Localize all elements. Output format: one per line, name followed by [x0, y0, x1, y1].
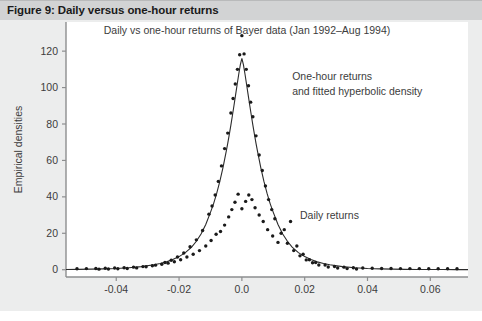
x-tick-label: 0.0	[235, 283, 250, 295]
data-point	[141, 265, 144, 268]
data-point	[107, 267, 110, 270]
data-point	[244, 200, 247, 203]
data-point	[160, 263, 163, 266]
data-point	[220, 164, 223, 167]
data-point	[214, 233, 217, 236]
data-point	[113, 266, 116, 269]
data-point	[289, 220, 292, 223]
chart-annotation: Daily returns	[300, 209, 359, 221]
data-point	[188, 245, 191, 248]
data-point	[361, 266, 364, 269]
data-point	[408, 267, 411, 270]
data-point	[251, 115, 254, 118]
figure-container: Figure 9: Daily versus one-hour returns …	[0, 0, 482, 321]
data-point	[257, 213, 260, 216]
data-point	[182, 251, 185, 254]
data-point	[273, 217, 276, 220]
data-point	[213, 193, 216, 196]
plot-background	[66, 22, 468, 277]
data-point	[336, 266, 339, 269]
data-point	[240, 34, 243, 37]
data-point	[104, 267, 107, 270]
figure-header-bar: Figure 9: Daily versus one-hour returns	[0, 0, 482, 21]
data-point	[355, 267, 358, 270]
data-point	[266, 228, 269, 231]
data-point	[283, 228, 286, 231]
data-point	[217, 180, 220, 183]
y-tick-label: 0	[52, 263, 58, 275]
data-point	[204, 244, 207, 247]
data-point	[267, 198, 270, 201]
data-point	[345, 267, 348, 270]
figure-footer	[0, 311, 482, 321]
data-point	[247, 193, 250, 196]
data-point	[223, 223, 226, 226]
data-point	[271, 234, 274, 237]
x-tick-label: 0.02	[294, 283, 315, 295]
data-point	[179, 258, 182, 261]
data-point	[295, 244, 298, 247]
x-tick-label: -0.04	[104, 283, 128, 295]
y-tick-label: 100	[40, 81, 58, 93]
data-point	[298, 254, 301, 257]
data-point	[185, 255, 188, 258]
data-point	[436, 267, 439, 270]
data-point	[85, 267, 88, 270]
data-point	[144, 265, 147, 268]
y-tick-label: 80	[46, 118, 58, 130]
data-point	[210, 204, 213, 207]
data-point	[250, 198, 253, 201]
chart-plot: 020406080100120-0.04-0.020.00.020.040.06…	[0, 20, 482, 311]
data-point	[154, 263, 157, 266]
y-axis-title: Empirical densities	[12, 106, 24, 194]
data-point	[317, 263, 320, 266]
data-point	[352, 266, 355, 269]
data-point	[198, 249, 201, 252]
data-point	[446, 267, 449, 270]
data-point	[192, 253, 195, 256]
data-point	[231, 97, 234, 100]
data-point	[245, 68, 248, 71]
data-point	[427, 267, 430, 270]
data-point	[418, 267, 421, 270]
data-point	[240, 207, 243, 210]
chart-annotation: and fitted hyperbolic density	[292, 85, 423, 97]
x-tick-label: 0.04	[357, 283, 378, 295]
data-point	[201, 229, 204, 232]
data-point	[230, 208, 233, 211]
data-point	[301, 253, 304, 256]
data-point	[371, 267, 374, 270]
data-point	[97, 267, 100, 270]
data-point	[333, 265, 336, 268]
data-point	[292, 249, 295, 252]
data-point	[135, 266, 138, 269]
data-point	[166, 261, 169, 264]
data-point	[233, 201, 236, 204]
data-point	[176, 255, 179, 258]
data-point	[308, 258, 311, 261]
data-point	[253, 206, 256, 209]
y-tick-label: 40	[46, 190, 58, 202]
figure-caption: Figure 9: Daily versus one-hour returns	[7, 4, 218, 16]
data-point	[236, 192, 239, 195]
data-point	[262, 220, 265, 223]
data-point	[229, 111, 232, 114]
data-point	[311, 261, 314, 264]
data-point	[264, 184, 267, 187]
data-point	[327, 265, 330, 268]
x-tick-label: -0.02	[167, 283, 191, 295]
data-point	[380, 267, 383, 270]
figure-body: 020406080100120-0.04-0.020.00.020.040.06…	[0, 20, 482, 311]
data-point	[242, 52, 245, 55]
data-point	[209, 239, 212, 242]
data-point	[151, 264, 154, 267]
data-point	[126, 267, 129, 270]
data-point	[389, 267, 392, 270]
data-point	[94, 267, 97, 270]
data-point	[132, 265, 135, 268]
data-point	[116, 267, 119, 270]
x-tick-label: 0.06	[420, 283, 441, 295]
chart-annotation: One-hour returns	[292, 70, 372, 82]
data-point	[270, 208, 273, 211]
plot-title: Daily vs one-hour returns of Bayer data …	[104, 24, 391, 36]
